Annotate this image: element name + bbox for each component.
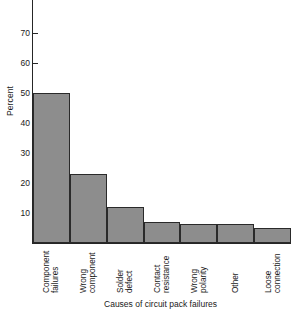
x-axis-category-label: Other xyxy=(231,273,240,293)
category-label-line-1: Wrong xyxy=(190,269,199,293)
x-axis-category-label: Wrongpolarity xyxy=(190,267,208,293)
category-label-line-2: resistance xyxy=(162,256,171,293)
x-axis-category-label: Componentfailures xyxy=(42,251,60,293)
category-label-line-2: component xyxy=(88,252,97,293)
bar xyxy=(254,228,291,243)
category-label-line-2: polarity xyxy=(199,267,208,293)
category-label-line-1: Contact xyxy=(153,265,162,293)
x-axis-category-label: Solderdefect xyxy=(116,269,134,293)
x-axis-category-label: Looseconnection xyxy=(264,253,282,293)
x-axis-category-label: Contactresistance xyxy=(153,256,171,293)
pareto-chart: Percent 10203040506070 Componentfailures… xyxy=(0,0,307,318)
category-label-line-1: Component xyxy=(42,251,51,293)
bar xyxy=(70,174,107,243)
category-label-line-2: failures xyxy=(52,251,61,293)
x-axis-line xyxy=(32,243,291,244)
bar xyxy=(33,93,70,243)
category-label-line-1: Loose xyxy=(264,271,273,293)
category-label-line-1: Solder xyxy=(116,269,125,293)
category-label-line-2: defect xyxy=(125,269,134,293)
bar xyxy=(107,207,144,243)
bar xyxy=(217,224,254,244)
x-axis-title: Causes of circuit pack failures xyxy=(0,299,307,309)
bar xyxy=(180,224,217,244)
category-label-line-1: Other xyxy=(231,273,240,293)
bar xyxy=(144,222,181,243)
category-label-line-2: connection xyxy=(273,253,282,293)
x-axis-category-label: Wrongcomponent xyxy=(79,252,97,293)
category-label-line-1: Wrong xyxy=(79,269,88,293)
